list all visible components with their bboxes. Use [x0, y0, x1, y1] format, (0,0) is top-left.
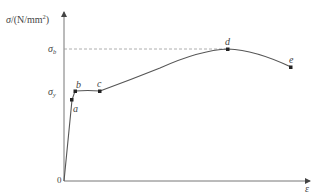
point-c-marker — [98, 90, 102, 94]
sigma-b-tick-label: σb — [48, 43, 57, 55]
point-b-marker — [74, 90, 78, 94]
point-a-marker — [70, 98, 74, 102]
origin-label: 0 — [57, 175, 62, 185]
point-e-label: e — [289, 54, 294, 65]
point-e-marker — [289, 66, 293, 70]
stress-strain-chart: a b c d e σ/(N/mm2) σb σy 0 ε — [0, 0, 324, 195]
sigma-y-tick-label: σy — [48, 86, 56, 98]
point-b-label: b — [76, 79, 81, 90]
point-d-marker — [226, 48, 230, 52]
point-c-label: c — [97, 78, 102, 89]
point-a-label: a — [73, 103, 78, 114]
y-axis-label: σ/(N/mm2) — [6, 13, 49, 26]
stress-strain-curve — [64, 49, 291, 181]
x-axis-label: ε — [305, 183, 309, 194]
point-d-label: d — [225, 36, 231, 47]
